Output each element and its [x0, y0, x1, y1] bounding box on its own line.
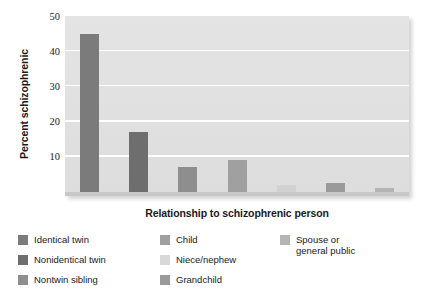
gridline-30: [65, 85, 409, 87]
legend-swatch-icon: [160, 255, 170, 265]
legend-swatch-icon: [160, 235, 170, 245]
legend-item-label: Nonidentical twin: [34, 254, 106, 265]
y-tick-label-30: 30: [34, 81, 60, 92]
legend-item: Spouse or general public: [280, 234, 410, 256]
y-tick-label-50: 50: [34, 11, 60, 22]
y-tick-label-10: 10: [34, 151, 60, 162]
legend-swatch-icon: [280, 235, 290, 245]
legend-item: Identical twin: [18, 234, 136, 247]
legend-item-label: Spouse or general public: [296, 234, 355, 256]
bar-4: [228, 160, 247, 192]
x-axis-title: Relationship to schizophrenic person: [65, 207, 409, 219]
legend-item: Nontwin sibling: [18, 274, 136, 287]
legend-item-label: Nontwin sibling: [34, 274, 98, 285]
legend-column-1: Identical twinNonidentical twinNontwin s…: [18, 234, 136, 294]
bar-3: [178, 167, 197, 192]
legend-item-label: Child: [176, 234, 198, 245]
legend-column-3: Spouse or general public: [280, 234, 410, 263]
x-axis-baseline: [65, 192, 409, 196]
legend-item-label: Grandchild: [176, 274, 222, 285]
legend-item: Niece/nephew: [160, 254, 270, 267]
legend-item: Child: [160, 234, 270, 247]
bar-5: [277, 185, 296, 192]
legend-swatch-icon: [18, 275, 28, 285]
legend-item-label: Identical twin: [34, 234, 89, 245]
bar-2: [129, 132, 148, 192]
legend-item-label: Niece/nephew: [176, 254, 236, 265]
chart-legend: Identical twinNonidentical twinNontwin s…: [18, 234, 418, 296]
gridline-50: [65, 14, 409, 16]
gridline-10: [65, 155, 409, 157]
plot-area: [65, 16, 409, 196]
gridline-20: [65, 120, 409, 122]
legend-swatch-icon: [160, 275, 170, 285]
bar-chart-figure: Percent schizophrenic 50 40 30 20 10 Rel…: [0, 0, 432, 308]
y-axis-title: Percent schizophrenic: [18, 19, 30, 189]
legend-item: Nonidentical twin: [18, 254, 136, 267]
legend-item: Grandchild: [160, 274, 270, 287]
gridline-40: [65, 50, 409, 52]
legend-swatch-icon: [18, 255, 28, 265]
y-tick-label-20: 20: [34, 116, 60, 127]
bar-1: [80, 34, 99, 192]
bar-6: [326, 183, 345, 192]
legend-swatch-icon: [18, 235, 28, 245]
y-tick-label-40: 40: [34, 46, 60, 57]
legend-column-2: ChildNiece/nephewGrandchild: [160, 234, 270, 294]
